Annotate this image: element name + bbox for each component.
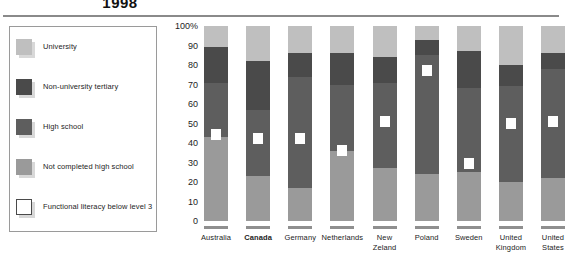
bar-segment bbox=[415, 26, 439, 40]
bar-column[interactable]: UnitedStates bbox=[538, 26, 568, 226]
x-axis-tickmark bbox=[204, 226, 228, 229]
bar-segment bbox=[246, 61, 270, 110]
bar-segment bbox=[415, 40, 439, 56]
bar-segment bbox=[204, 137, 228, 221]
legend-item-university[interactable]: University bbox=[16, 39, 156, 61]
legend-swatch-not-completed-high-school bbox=[16, 159, 32, 175]
legend-label-not-completed-high-school: Not completed high school bbox=[43, 161, 134, 172]
x-axis-label: UnitedStates bbox=[531, 233, 571, 252]
bar-segment bbox=[204, 26, 228, 47]
y-axis: 100%9080706050403020100 bbox=[168, 26, 198, 226]
x-axis-tickmark bbox=[541, 226, 565, 229]
x-axis-label: UnitedKingdom bbox=[489, 233, 533, 252]
x-axis-tickmark bbox=[499, 226, 523, 229]
bar-segment bbox=[246, 176, 270, 221]
stacked-bar[interactable] bbox=[457, 26, 481, 221]
bar-segment bbox=[499, 182, 523, 221]
legend-item-high-school[interactable]: High school bbox=[16, 119, 156, 141]
legend-swatch-functional-literacy bbox=[16, 199, 32, 215]
functional-literacy-marker bbox=[380, 116, 390, 127]
functional-literacy-marker bbox=[464, 158, 474, 169]
stacked-bar[interactable] bbox=[541, 26, 565, 221]
functional-literacy-marker bbox=[253, 133, 263, 144]
x-axis-label: Australia bbox=[194, 233, 238, 243]
x-axis-tickmark bbox=[288, 226, 312, 229]
x-axis-tickmark bbox=[246, 226, 270, 229]
x-axis-label: Poland bbox=[405, 233, 449, 243]
chart-page: 1998 University Non-university tertiary … bbox=[0, 0, 571, 276]
x-axis-tickmark bbox=[373, 226, 397, 229]
legend-item-non-university-tertiary[interactable]: Non-university tertiary bbox=[16, 79, 156, 101]
bar-segment bbox=[541, 53, 565, 69]
x-axis-tickmark bbox=[457, 226, 481, 229]
bar-segment bbox=[499, 86, 523, 182]
bar-segment bbox=[246, 26, 270, 61]
y-axis-tick: 90 bbox=[188, 42, 198, 51]
legend-item-functional-literacy[interactable]: Functional literacy below level 3 bbox=[16, 199, 156, 221]
bar-column[interactable]: Germany bbox=[285, 26, 315, 226]
legend-item-not-completed-high-school[interactable]: Not completed high school bbox=[16, 159, 156, 181]
bar-segment bbox=[373, 57, 397, 82]
bar-segment bbox=[541, 26, 565, 53]
functional-literacy-marker bbox=[422, 65, 432, 76]
bar-column[interactable]: Poland bbox=[412, 26, 442, 226]
x-axis-tickmark bbox=[415, 226, 439, 229]
functional-literacy-marker bbox=[548, 116, 558, 127]
bar-segment bbox=[288, 53, 312, 76]
x-axis-label: Germany bbox=[278, 233, 322, 243]
y-axis-tick: 0 bbox=[193, 217, 198, 226]
stacked-bar[interactable] bbox=[415, 26, 439, 221]
bar-column[interactable]: UnitedKingdom bbox=[496, 26, 526, 226]
bar-segment bbox=[499, 65, 523, 86]
stacked-bar[interactable] bbox=[373, 26, 397, 221]
legend-swatch-non-university-tertiary bbox=[16, 79, 32, 95]
title-divider bbox=[3, 15, 559, 17]
legend-swatch-high-school bbox=[16, 119, 32, 135]
bar-column[interactable]: NewZeland bbox=[370, 26, 400, 226]
page-title: 1998 bbox=[0, 0, 240, 8]
legend-label-high-school: High school bbox=[43, 121, 83, 132]
bar-column[interactable]: Australia bbox=[201, 26, 231, 226]
legend-label-functional-literacy: Functional literacy below level 3 bbox=[43, 201, 152, 212]
bar-segment bbox=[330, 85, 354, 151]
bar-group: AustraliaCanadaGermanyNetherlandsNewZela… bbox=[201, 26, 568, 226]
functional-literacy-marker bbox=[295, 133, 305, 144]
x-axis-label: Sweden bbox=[447, 233, 491, 243]
bar-segment bbox=[288, 26, 312, 53]
x-axis-tickmark bbox=[330, 226, 354, 229]
legend-label-university: University bbox=[43, 41, 77, 52]
bar-segment bbox=[457, 26, 481, 51]
bar-segment bbox=[330, 26, 354, 53]
y-axis-tick: 60 bbox=[188, 100, 198, 109]
y-axis-tick: 70 bbox=[188, 81, 198, 90]
y-axis-tick: 20 bbox=[188, 178, 198, 187]
stacked-bar[interactable] bbox=[288, 26, 312, 221]
functional-literacy-marker bbox=[337, 145, 347, 156]
bar-segment bbox=[499, 26, 523, 65]
x-axis-label: NewZeland bbox=[363, 233, 407, 252]
bar-segment bbox=[330, 53, 354, 84]
bar-segment bbox=[373, 26, 397, 57]
stacked-bar[interactable] bbox=[204, 26, 228, 221]
legend-label-non-university-tertiary: Non-university tertiary bbox=[43, 81, 118, 92]
chart-plot-area: 100%9080706050403020100 AustraliaCanadaG… bbox=[168, 26, 568, 236]
functional-literacy-marker bbox=[211, 129, 221, 140]
bar-column[interactable]: Netherlands bbox=[327, 26, 357, 226]
bar-segment bbox=[541, 178, 565, 221]
bar-segment bbox=[457, 172, 481, 221]
bar-segment bbox=[373, 168, 397, 221]
bar-segment bbox=[415, 174, 439, 221]
stacked-bar[interactable] bbox=[246, 26, 270, 221]
bar-column[interactable]: Canada bbox=[243, 26, 273, 226]
bar-column[interactable]: Sweden bbox=[454, 26, 484, 226]
y-axis-tick: 80 bbox=[188, 61, 198, 70]
stacked-bar[interactable] bbox=[499, 26, 523, 221]
stacked-bar[interactable] bbox=[330, 26, 354, 221]
y-axis-tick: 10 bbox=[188, 198, 198, 207]
x-axis-label: Canada bbox=[236, 233, 280, 243]
y-axis-tick: 40 bbox=[188, 139, 198, 148]
x-axis-label: Netherlands bbox=[320, 233, 364, 243]
bar-segment bbox=[288, 188, 312, 221]
bar-segment bbox=[457, 51, 481, 88]
functional-literacy-marker bbox=[506, 118, 516, 129]
